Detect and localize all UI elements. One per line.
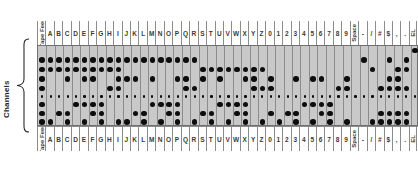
column-footer--[interactable]: . [400, 127, 408, 151]
punch-hole [150, 102, 156, 108]
column-footer-w[interactable]: W [231, 127, 239, 151]
column-footer-j[interactable]: J [122, 127, 130, 151]
column-header-u[interactable]: U [215, 21, 223, 45]
column-header-i[interactable]: I [113, 21, 121, 45]
column-footer-3[interactable]: 3 [291, 127, 299, 151]
column-header-z[interactable]: Z [257, 21, 265, 45]
column-footer-p[interactable]: P [172, 127, 180, 151]
punch-hole [310, 119, 316, 125]
column-header-9[interactable]: 9 [341, 21, 349, 45]
column-footer-s[interactable]: S [198, 127, 206, 151]
column-header-t[interactable]: T [206, 21, 214, 45]
column-footer-u[interactable]: U [215, 127, 223, 151]
column-header-b[interactable]: B [54, 21, 62, 45]
column-footer--[interactable]: , [392, 127, 400, 151]
column-footer-n[interactable]: N [155, 127, 163, 151]
column-divider [351, 46, 352, 125]
punch-hole [82, 57, 88, 63]
column-header-c[interactable]: C [62, 21, 70, 45]
column-label-text: J [124, 30, 128, 37]
column-footer-5[interactable]: 5 [308, 127, 316, 151]
column-footer--[interactable]: - [358, 127, 366, 151]
column-header-e[interactable]: E [79, 21, 87, 45]
column-header-j[interactable]: J [122, 21, 130, 45]
column-footer-9[interactable]: 9 [341, 127, 349, 151]
column-footer-r[interactable]: R [189, 127, 197, 151]
column-header-k[interactable]: K [130, 21, 138, 45]
column-header-8[interactable]: 8 [333, 21, 341, 45]
column-footer-8[interactable]: 8 [333, 127, 341, 151]
column-footer-tape-feed[interactable]: Tape Feed [37, 127, 45, 151]
column-footer-6[interactable]: 6 [316, 127, 324, 151]
column-header--[interactable]: # [375, 21, 383, 45]
column-header-6[interactable]: 6 [316, 21, 324, 45]
column-footer-b[interactable]: B [54, 127, 62, 151]
column-header-1[interactable]: 1 [274, 21, 282, 45]
column-footer-c[interactable]: C [62, 127, 70, 151]
column-footer-g[interactable]: G [96, 127, 104, 151]
column-header-4[interactable]: 4 [299, 21, 307, 45]
column-header-w[interactable]: W [231, 21, 239, 45]
column-header-l[interactable]: L [138, 21, 146, 45]
column-footer-x[interactable]: X [240, 127, 248, 151]
column-header-2[interactable]: 2 [282, 21, 290, 45]
column-header-d[interactable]: D [71, 21, 79, 45]
column-header--[interactable]: . [400, 21, 408, 45]
column-header-3[interactable]: 3 [291, 21, 299, 45]
column-header-n[interactable]: N [155, 21, 163, 45]
column-footer-h[interactable]: H [105, 127, 113, 151]
column-footer-z[interactable]: Z [257, 127, 265, 151]
column-header-v[interactable]: V [223, 21, 231, 45]
column-header-7[interactable]: 7 [324, 21, 332, 45]
column-header-y[interactable]: Y [248, 21, 256, 45]
column-footer-d[interactable]: D [71, 127, 79, 151]
column-header-h[interactable]: H [105, 21, 113, 45]
column-header-el[interactable]: EL [409, 21, 417, 45]
column-header-5[interactable]: 5 [308, 21, 316, 45]
column-footer-space[interactable]: Space [350, 127, 358, 151]
column-footer-y[interactable]: Y [248, 127, 256, 151]
column-header-q[interactable]: Q [181, 21, 189, 45]
column-header-0[interactable]: 0 [265, 21, 273, 45]
column-header--[interactable]: $ [384, 21, 392, 45]
column-footer-k[interactable]: K [130, 127, 138, 151]
column-header-x[interactable]: X [240, 21, 248, 45]
column-footer-7[interactable]: 7 [324, 127, 332, 151]
column-footer-l[interactable]: L [138, 127, 146, 151]
column-header-a[interactable]: A [45, 21, 53, 45]
column-header--[interactable]: - [358, 21, 366, 45]
column-header-p[interactable]: P [172, 21, 180, 45]
column-divider [385, 46, 386, 125]
column-footer-o[interactable]: O [164, 127, 172, 151]
column-footer-el[interactable]: EL [409, 127, 417, 151]
column-header-o[interactable]: O [164, 21, 172, 45]
column-header--[interactable]: / [367, 21, 375, 45]
column-header-g[interactable]: G [96, 21, 104, 45]
column-footer-i[interactable]: I [113, 127, 121, 151]
column-footer-a[interactable]: A [45, 127, 53, 151]
column-header-m[interactable]: M [147, 21, 155, 45]
punch-hole [150, 57, 156, 63]
column-label-text: D [73, 30, 78, 37]
column-header-space[interactable]: Space [350, 21, 358, 45]
column-footer--[interactable]: / [367, 127, 375, 151]
punch-hole [361, 57, 367, 63]
column-footer-1[interactable]: 1 [274, 127, 282, 151]
column-footer-f[interactable]: F [88, 127, 96, 151]
column-header-r[interactable]: R [189, 21, 197, 45]
column-footer--[interactable]: # [375, 127, 383, 151]
column-footer-4[interactable]: 4 [299, 127, 307, 151]
column-footer-e[interactable]: E [79, 127, 87, 151]
column-footer-m[interactable]: M [147, 127, 155, 151]
column-header-tape-feed[interactable]: Tape Feed [37, 21, 45, 45]
column-header-f[interactable]: F [88, 21, 96, 45]
column-header--[interactable]: , [392, 21, 400, 45]
column-footer-t[interactable]: T [206, 127, 214, 151]
column-footer-0[interactable]: 0 [265, 127, 273, 151]
column-footer-2[interactable]: 2 [282, 127, 290, 151]
column-footer--[interactable]: $ [384, 127, 392, 151]
column-header-s[interactable]: S [198, 21, 206, 45]
column-footer-v[interactable]: V [223, 127, 231, 151]
column-footer-q[interactable]: Q [181, 127, 189, 151]
punch-hole [217, 67, 223, 73]
